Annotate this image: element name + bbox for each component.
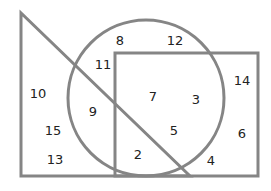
region-label: 4 bbox=[207, 153, 215, 168]
region-label: 13 bbox=[47, 152, 64, 167]
region-label: 2 bbox=[134, 147, 142, 162]
venn-diagram: 81211141073915562134 bbox=[0, 0, 271, 191]
region-label: 14 bbox=[234, 73, 251, 88]
region-label: 10 bbox=[30, 86, 47, 101]
region-label: 6 bbox=[238, 126, 246, 141]
region-label: 8 bbox=[116, 33, 124, 48]
region-label: 15 bbox=[45, 123, 62, 138]
region-label: 7 bbox=[149, 89, 157, 104]
region-label: 12 bbox=[167, 33, 184, 48]
region-label: 5 bbox=[170, 123, 178, 138]
circle-set bbox=[68, 20, 224, 176]
region-label: 9 bbox=[89, 104, 97, 119]
region-label: 3 bbox=[192, 92, 200, 107]
region-label: 11 bbox=[95, 57, 112, 72]
